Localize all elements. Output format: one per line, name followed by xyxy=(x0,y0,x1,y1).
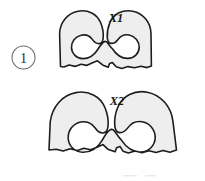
specimen-label-lower: X2 xyxy=(109,94,125,108)
scan-artifact xyxy=(123,175,156,176)
figure-panel: X1 X2 1 xyxy=(0,0,205,181)
specimen-label-upper: X1 xyxy=(108,11,124,25)
figure-number-badge: 1 xyxy=(12,46,35,69)
figure-illustration: X1 X2 1 xyxy=(0,0,205,181)
figure-number-label: 1 xyxy=(20,50,28,66)
specimen-upper-group xyxy=(60,11,152,69)
tooth-outline-upper xyxy=(60,11,152,69)
